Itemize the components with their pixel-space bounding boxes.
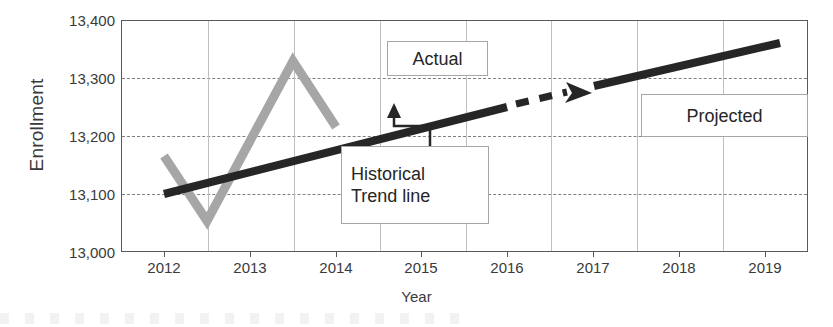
x-tick-label: 2019 [722,259,808,277]
y-tick-label: 13,000 [5,245,115,260]
gridline-horizontal [122,78,807,79]
gridline-vertical [208,21,209,251]
x-tick-mark [507,252,508,257]
gridline-vertical [551,21,552,251]
x-tick-label: 2017 [550,259,636,277]
x-tick-label: 2012 [121,259,207,277]
x-tick-label: 2015 [378,259,464,277]
x-tick-label: 2013 [207,259,293,277]
y-axis-tick-labels: 13,400 13,300 13,200 13,100 13,000 [0,0,115,327]
callout-projected: Projected [641,94,808,137]
gridline-vertical [637,21,638,251]
gridline-vertical [294,21,295,251]
enrollment-trend-chart: Enrollment 13,400 13,300 13,200 13,100 1… [0,0,833,327]
y-tick-label: 13,100 [5,187,115,202]
callout-historical-line1: Historical [351,163,425,185]
x-axis-title: Year [0,288,833,306]
x-tick-label: 2016 [464,259,550,277]
y-tick-label: 13,400 [5,13,115,28]
x-tick-mark [336,252,337,257]
y-tick-label: 13,200 [5,129,115,144]
callout-actual: Actual [387,41,488,76]
y-tick-label: 13,300 [5,71,115,86]
callout-historical-line2: Trend line [351,185,430,207]
callout-historical-trend-line: Historical Trend line [341,146,489,224]
callout-projected-label: Projected [686,105,762,127]
clipped-caption-artifact [0,313,470,324]
x-tick-label: 2018 [636,259,722,277]
x-tick-label: 2014 [293,259,379,277]
x-tick-mark [164,252,165,257]
x-tick-mark [250,252,251,257]
callout-actual-label: Actual [412,48,462,70]
x-tick-mark [765,252,766,257]
x-tick-mark [679,252,680,257]
x-tick-mark [593,252,594,257]
x-tick-mark [421,252,422,257]
